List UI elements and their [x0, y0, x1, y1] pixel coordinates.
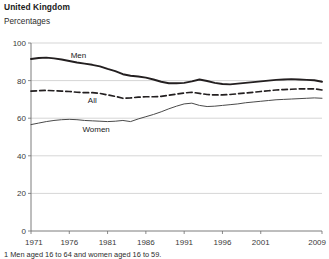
xtick-label-2009: 2009	[308, 238, 326, 247]
xtick-label-1986: 1986	[137, 238, 155, 247]
series-line-women	[31, 98, 322, 125]
chart-footnote: 1 Men aged 16 to 64 and women aged 16 to…	[4, 250, 326, 259]
xtick-label-1971: 1971	[25, 238, 43, 247]
ytick-label-0: 0	[22, 227, 27, 236]
ytick-label-60: 60	[17, 114, 26, 123]
series-label-women: Women	[82, 125, 109, 134]
ytick-label-80: 80	[17, 77, 26, 86]
xtick-label-2001: 2001	[252, 238, 270, 247]
ytick-label-40: 40	[17, 152, 26, 161]
series-label-men: Men	[71, 51, 87, 60]
series-label-all: All	[88, 96, 97, 105]
series-line-all	[31, 89, 322, 98]
chart-plot-area: 0204060801001971197619811986199119962001…	[0, 0, 329, 259]
xtick-label-1976: 1976	[60, 238, 78, 247]
xtick-label-1981: 1981	[99, 238, 117, 247]
ytick-label-100: 100	[13, 39, 27, 48]
chart-page: United Kingdom Percentages 0204060801001…	[0, 0, 329, 259]
xtick-label-1996: 1996	[214, 238, 232, 247]
line-chart: 0204060801001971197619811986199119962001…	[0, 0, 329, 259]
xtick-label-1991: 1991	[175, 238, 193, 247]
ytick-label-20: 20	[17, 189, 26, 198]
